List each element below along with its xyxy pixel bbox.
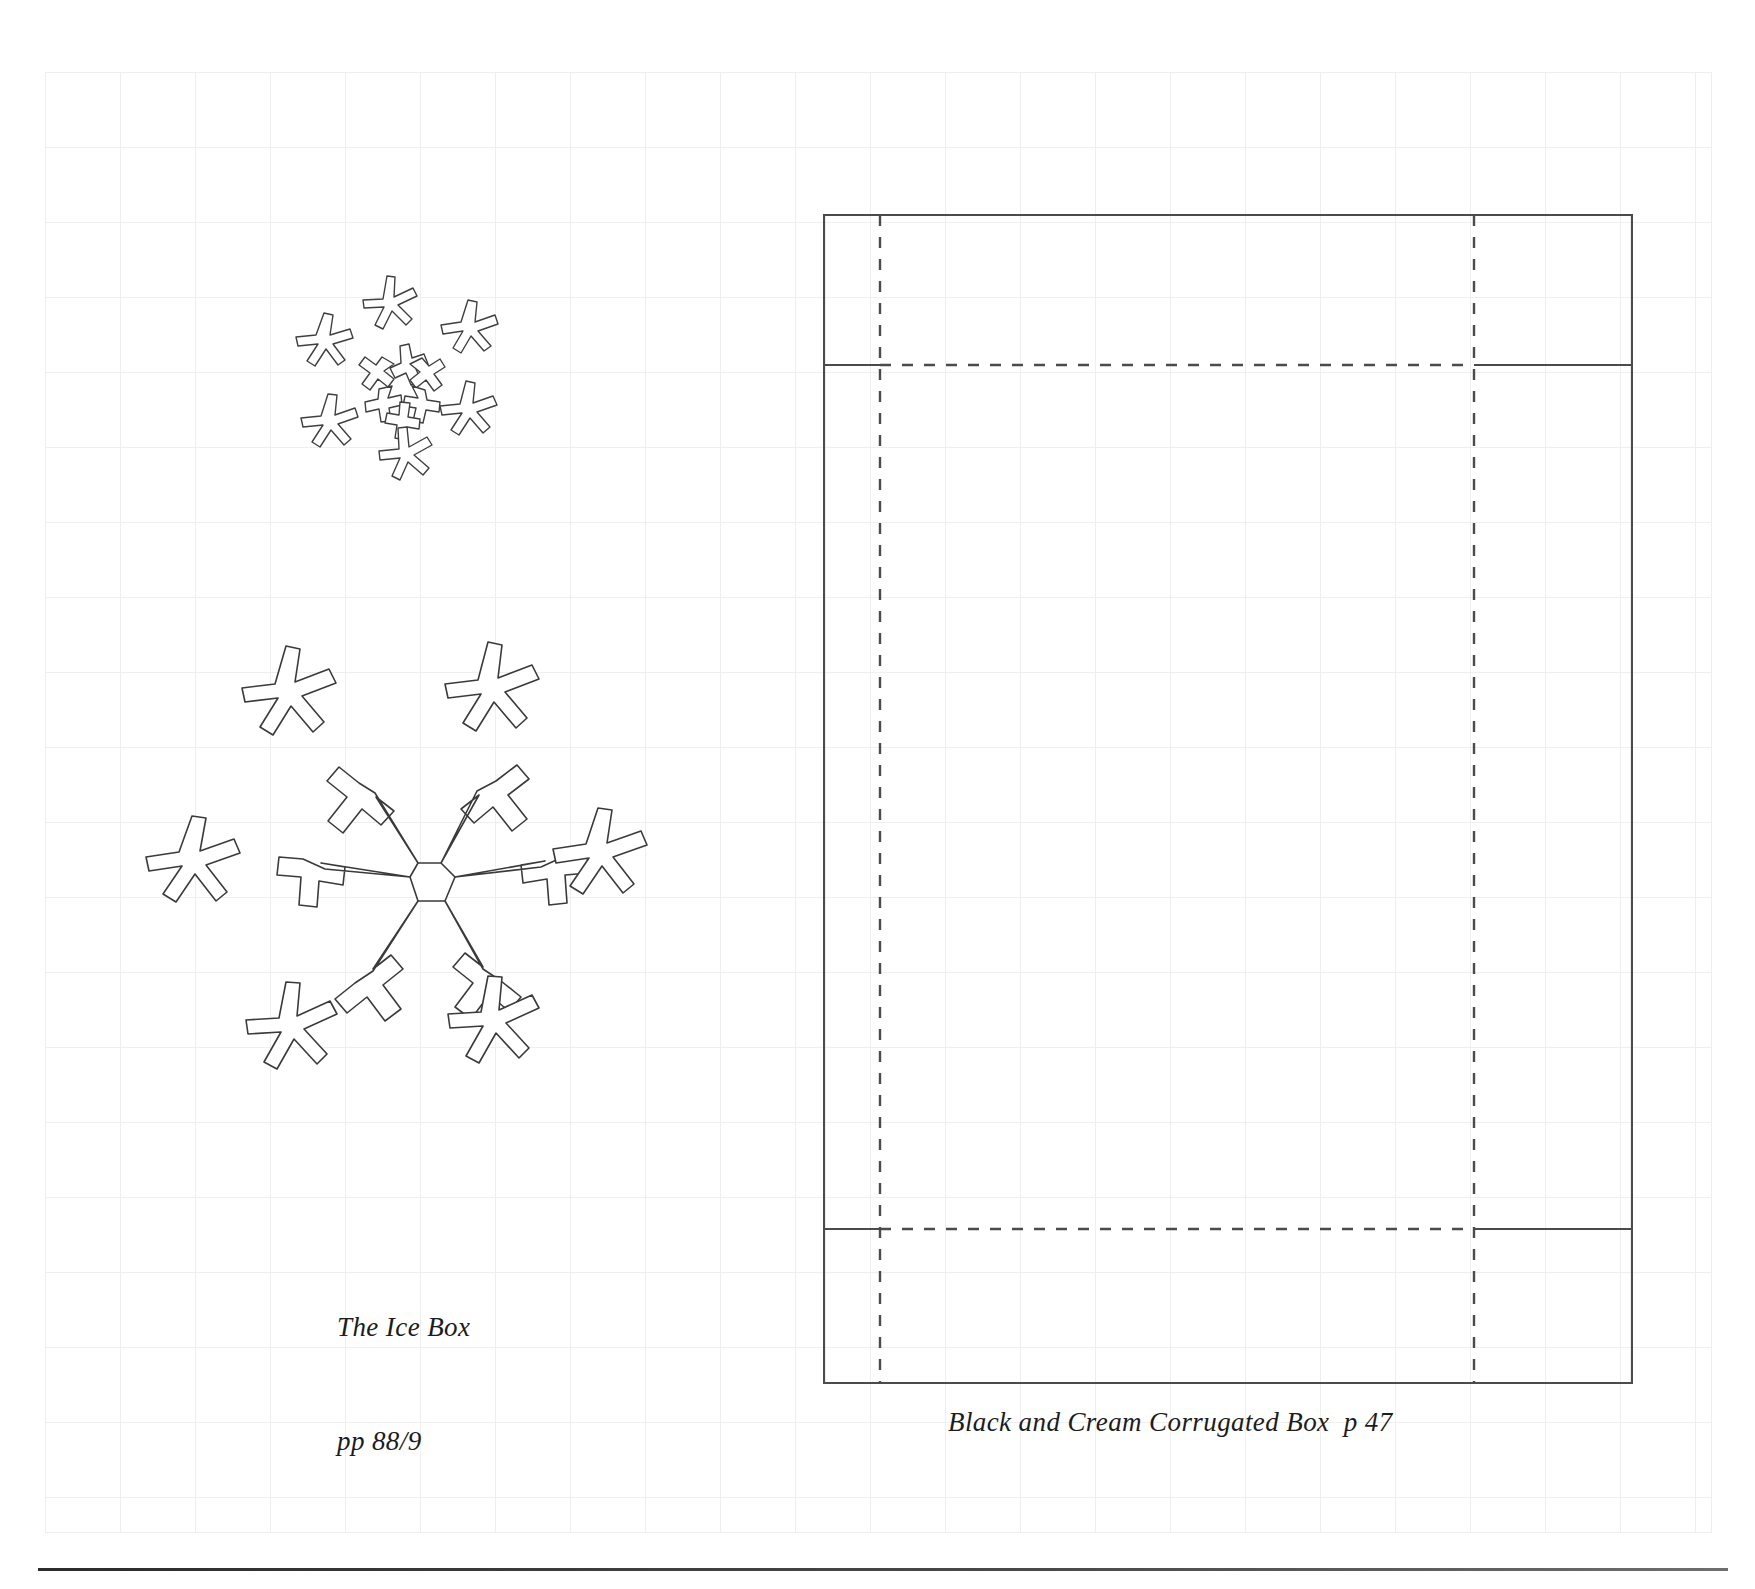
star-small-southeast	[436, 378, 508, 450]
page-bottom-rule	[38, 1568, 1728, 1571]
star-small-southwest	[294, 390, 366, 462]
grid-edge-right	[1711, 72, 1712, 1533]
caption-ice-box: The Ice Box pp 88/9	[337, 1232, 470, 1536]
star-large-northeast	[438, 636, 558, 751]
corrugated-box-dieline	[823, 214, 1633, 1384]
caption-corrugated-box: Black and Cream Corrugated Box p 47	[948, 1407, 1393, 1438]
star-small-northeast	[440, 298, 510, 368]
star-small-north	[355, 272, 425, 342]
caption-ice-box-line1: The Ice Box	[337, 1308, 470, 1346]
page-canvas: The Ice Box pp 88/9 Black and Cream Corr…	[0, 0, 1755, 1589]
star-large-east	[548, 800, 668, 915]
star-small-south	[368, 422, 440, 494]
caption-ice-box-line2: pp 88/9	[337, 1422, 470, 1460]
grid-edge-bottom	[45, 1532, 1712, 1533]
star-large-southwest	[236, 972, 356, 1087]
star-large-west	[138, 808, 258, 923]
dieline-outer-cut	[824, 215, 1632, 1383]
star-large-southeast	[440, 966, 560, 1081]
star-small-northwest	[288, 310, 360, 382]
star-large-northwest	[234, 640, 354, 755]
